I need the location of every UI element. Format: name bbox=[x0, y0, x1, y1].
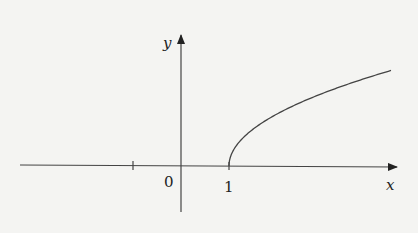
tick-label-one: 1 bbox=[224, 178, 234, 196]
x-axis-label: x bbox=[386, 176, 395, 194]
origin-label: 0 bbox=[164, 173, 174, 191]
sqrt-curve bbox=[229, 70, 391, 166]
y-axis-label: y bbox=[162, 34, 172, 52]
function-graph: y x 0 1 bbox=[0, 0, 418, 233]
x-axis bbox=[20, 165, 397, 167]
